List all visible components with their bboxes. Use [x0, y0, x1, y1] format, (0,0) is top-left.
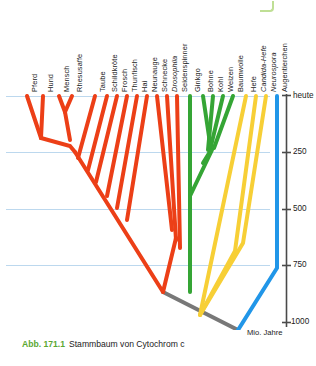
branch-thunfisch	[107, 96, 127, 196]
branch-primates-stem	[65, 112, 70, 140]
tree-canvas	[0, 0, 316, 330]
branch-pferd	[27, 96, 41, 138]
figure-caption-text: Stammbaum von Cytochrom c	[69, 339, 185, 349]
axis-label-heute: heute	[293, 92, 314, 100]
branch-neunauge	[127, 96, 147, 220]
axis-label-1000: 1000	[291, 318, 309, 326]
axis-unit-label: Mio. Jahre	[247, 329, 282, 337]
branch-hund	[41, 96, 43, 138]
euglena-branches	[238, 96, 277, 330]
figure-number: Abb. 171.1	[22, 339, 65, 349]
branch-rhesusaffe	[65, 96, 72, 112]
axis-label-750: 750	[293, 261, 307, 269]
phylogenetic-tree-figure: PferdHundMenschRhesusaffeTaubeSchildkröt…	[0, 0, 316, 330]
figure-caption: Abb. 171.1Stammbaum von Cytochrom c	[22, 339, 185, 349]
axis-label-500: 500	[293, 205, 307, 213]
axis-label-250: 250	[293, 148, 307, 156]
branch-vertebrate-stem	[75, 152, 163, 292]
gridlines	[6, 97, 270, 266]
animal-branches	[27, 96, 180, 292]
branch-seidenspinner	[177, 96, 180, 248]
branch-augentierchen	[238, 96, 277, 330]
time-axis	[282, 94, 291, 327]
figure-page: PferdHundMenschRhesusaffeTaubeSchildkröt…	[0, 0, 316, 366]
branch-angiosperm-node	[190, 150, 212, 196]
